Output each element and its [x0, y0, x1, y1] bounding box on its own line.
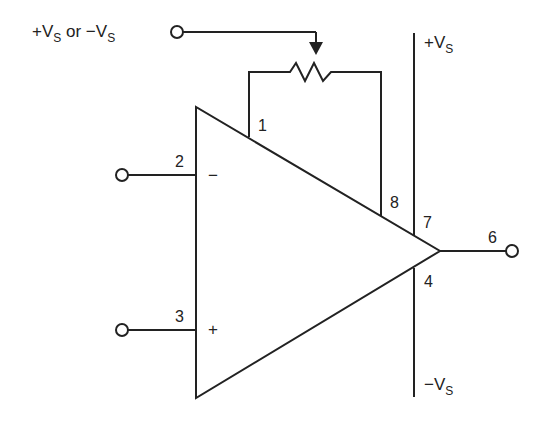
input-terminal-2[interactable]	[116, 169, 128, 181]
output-terminal-6[interactable]	[506, 245, 518, 257]
supply-input-label: +VS or −VS	[32, 22, 115, 45]
supply-input-terminal[interactable]	[171, 26, 183, 38]
inverting-input-symbol: −	[208, 166, 218, 185]
opamp-triangle	[196, 107, 440, 398]
pin-7-label: 7	[423, 214, 432, 231]
pin-4-label: 4	[424, 273, 433, 290]
input-terminal-3[interactable]	[116, 324, 128, 336]
noninverting-input-symbol: +	[208, 320, 218, 339]
positive-rail-label: +VS	[424, 33, 453, 56]
wiper-arrow-icon	[309, 42, 323, 55]
potentiometer	[249, 63, 381, 216]
pin-2-label: 2	[175, 153, 184, 170]
pin-6-label: 6	[488, 229, 497, 246]
pin-8-label: 8	[390, 194, 399, 211]
pin-1-label: 1	[258, 117, 267, 134]
opamp-schematic: +VS or −VS +VS −VS 1 2 3 4 6 7 8 − +	[0, 0, 542, 424]
pin-3-label: 3	[175, 308, 184, 325]
negative-rail-label: −VS	[424, 375, 453, 398]
